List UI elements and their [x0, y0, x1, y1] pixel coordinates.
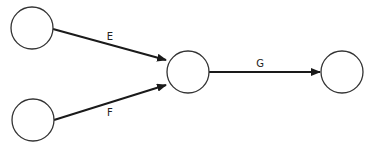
edge-label-e: E [107, 31, 113, 42]
node-circle-4 [321, 51, 363, 93]
edge-label-g: G [256, 58, 264, 69]
nodes-group [11, 7, 363, 141]
edge-label-f: F [107, 107, 113, 118]
node-circle-1 [11, 7, 53, 49]
network-diagram: EFG [0, 0, 370, 152]
node-circle-3 [167, 51, 209, 93]
node-circle-2 [12, 99, 54, 141]
